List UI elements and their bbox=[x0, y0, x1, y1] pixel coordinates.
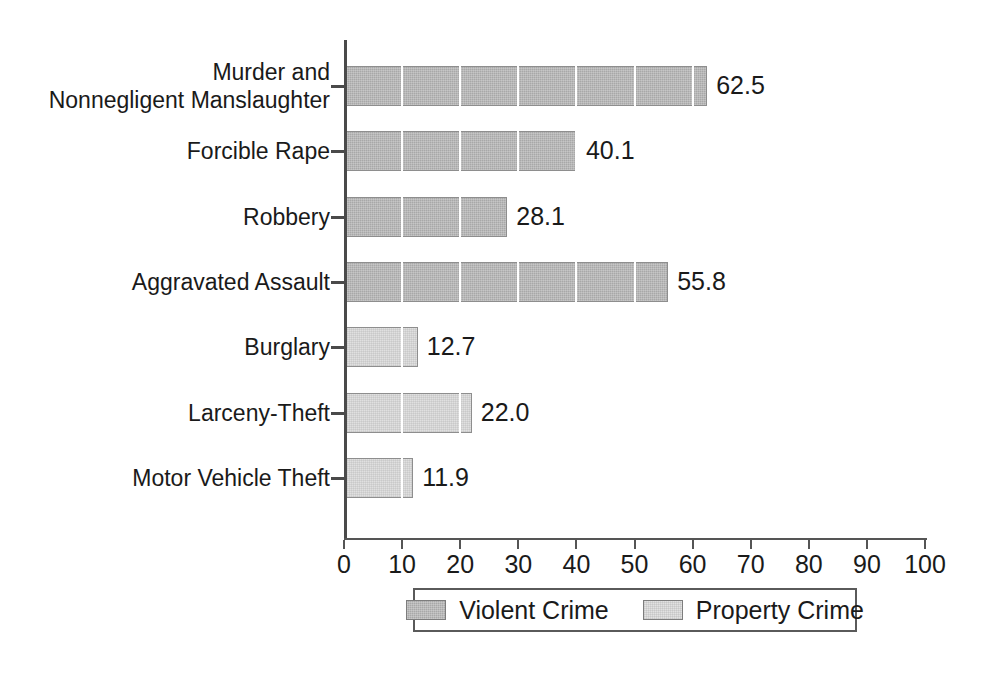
x-gridline bbox=[575, 40, 577, 538]
x-gridline bbox=[808, 40, 810, 538]
bar-larceny-theft bbox=[344, 393, 472, 433]
legend-label-violent-crime: Violent Crime bbox=[459, 596, 609, 624]
y-axis-tick bbox=[331, 216, 344, 219]
bar-value-label: 40.1 bbox=[586, 135, 635, 165]
bar-value-label: 22.0 bbox=[481, 397, 530, 427]
y-axis-tick bbox=[331, 281, 344, 284]
x-gridline bbox=[866, 40, 868, 538]
category-label: Robbery bbox=[0, 203, 330, 231]
x-axis-tick bbox=[808, 540, 810, 549]
x-axis-line bbox=[344, 538, 927, 540]
bar-value-label: 11.9 bbox=[422, 462, 469, 492]
x-axis-tick bbox=[866, 540, 868, 549]
category-label: Motor Vehicle Theft bbox=[0, 464, 330, 492]
chart-legend: Violent Crime Property Crime bbox=[413, 588, 857, 632]
x-axis-tick bbox=[401, 540, 403, 549]
bar-murder-and-nonnegligent-manslaughter bbox=[344, 66, 707, 106]
x-axis-tick bbox=[459, 540, 461, 549]
category-label: Murder and Nonnegligent Manslaughter bbox=[0, 58, 330, 114]
x-gridline bbox=[517, 40, 519, 538]
bar-value-label: 55.8 bbox=[677, 266, 726, 296]
x-gridline bbox=[750, 40, 752, 538]
y-axis-tick bbox=[331, 85, 344, 88]
x-axis-tick bbox=[750, 540, 752, 549]
x-axis-tick bbox=[575, 540, 577, 549]
x-gridline bbox=[634, 40, 636, 538]
x-axis-tick bbox=[343, 540, 345, 549]
y-axis-line bbox=[344, 40, 347, 540]
category-label: Larceny-Theft bbox=[0, 399, 330, 427]
legend-swatch-violent-crime bbox=[406, 600, 446, 620]
x-axis-tick-label: 100 bbox=[885, 549, 965, 579]
y-axis-tick bbox=[331, 346, 344, 349]
x-gridline bbox=[924, 40, 926, 538]
bar-aggravated-assault bbox=[344, 262, 668, 302]
category-label: Forcible Rape bbox=[0, 137, 330, 165]
legend-label-property-crime: Property Crime bbox=[696, 596, 864, 624]
y-axis-tick bbox=[331, 150, 344, 153]
y-axis-tick bbox=[331, 412, 344, 415]
bar-value-label: 28.1 bbox=[516, 201, 565, 231]
x-axis-tick bbox=[517, 540, 519, 549]
legend-entry-violent-crime: Violent Crime bbox=[406, 596, 609, 624]
x-axis-tick bbox=[924, 540, 926, 549]
category-label: Burglary bbox=[0, 333, 330, 361]
legend-entry-property-crime: Property Crime bbox=[643, 596, 864, 624]
bar-burglary bbox=[344, 327, 418, 367]
y-axis-tick bbox=[331, 477, 344, 480]
legend-swatch-property-crime bbox=[643, 600, 683, 620]
bar-value-label: 62.5 bbox=[716, 70, 765, 100]
x-axis-tick bbox=[692, 540, 694, 549]
category-label: Aggravated Assault bbox=[0, 268, 330, 296]
x-gridline bbox=[401, 40, 403, 538]
bar-robbery bbox=[344, 197, 507, 237]
x-axis-tick bbox=[634, 540, 636, 549]
bar-chart-figure: 0102030405060708090100 Murder and Nonneg… bbox=[0, 0, 992, 675]
bar-value-label: 12.7 bbox=[427, 331, 476, 361]
